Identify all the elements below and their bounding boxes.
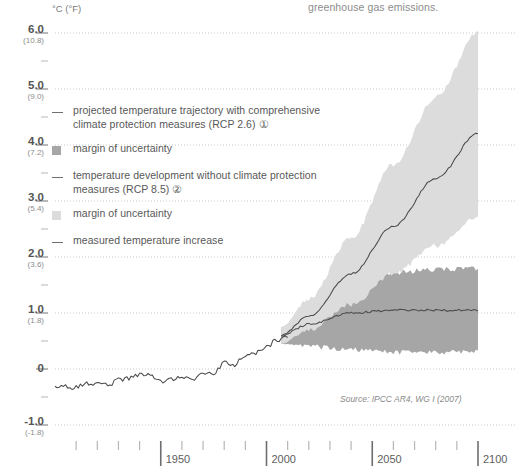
legend-item-label: margin of uncertainty [73,207,352,221]
y-tick-label: 6.0(10.8) [0,24,44,45]
legend-item-label: measured temperature increase [73,234,352,248]
legend-swatch-icon [52,211,61,220]
legend-item-label: projected temperature trajectory with co… [73,104,352,131]
y-tick-label: 4.0(7.2) [0,136,44,157]
y-tick-label: -1.0(-1.8) [0,416,44,437]
legend-swatch-icon [52,146,61,155]
y-tick-label: 1.0(1.8) [0,304,44,325]
x-tick-label: 2100 [483,453,507,465]
y-tick-label: 3.0(5.4) [0,192,44,213]
y-tick-label: 2.0(3.6) [0,248,44,269]
legend-item-label: margin of uncertainty [73,142,352,156]
legend-item: projected temperature trajectory with co… [52,104,352,131]
legend-item: margin of uncertainty [52,142,352,156]
x-tick-label: 1950 [166,453,190,465]
chart-legend: projected temperature trajectory with co… [52,104,352,257]
x-tick-label: 2050 [377,453,401,465]
y-tick-label: 5.0(9.0) [0,80,44,101]
legend-item: margin of uncertainty [52,207,352,221]
legend-line-icon [52,172,65,183]
legend-line-icon [52,107,65,118]
y-tick-label: 0 [0,363,44,376]
legend-item-label: temperature development without climate … [73,169,352,196]
legend-item: temperature development without climate … [52,169,352,196]
legend-line-icon [52,237,65,248]
x-tick-label: 2000 [272,453,296,465]
source-note: Source: IPCC AR4, WG I (2007) [340,394,462,404]
legend-item: measured temperature increase [52,234,352,248]
